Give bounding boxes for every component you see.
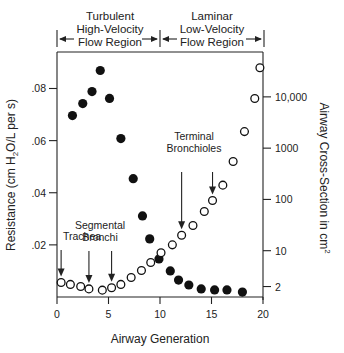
cross-section-point bbox=[98, 286, 106, 294]
annotation-label: Segmental bbox=[75, 219, 125, 231]
y-axis-title-part2: O/L per s) bbox=[4, 99, 18, 152]
annotation-arrowhead bbox=[178, 221, 185, 229]
annotation-label: Bronchi bbox=[82, 231, 118, 243]
region-arrow-laminar-left bbox=[162, 36, 177, 42]
x-tick-label: 15 bbox=[206, 308, 218, 320]
y2-ticks: 210100100010,000 bbox=[263, 91, 307, 293]
cross-section-point bbox=[178, 231, 186, 239]
region-turbulent-line2: High-Velocity bbox=[76, 23, 143, 35]
annotation-arrowhead bbox=[85, 275, 92, 283]
resistance-point bbox=[184, 280, 193, 289]
region-turbulent-line1: Turbulent bbox=[86, 10, 135, 22]
annotation-arrowhead bbox=[108, 274, 115, 282]
region-arrow-turbulent-right bbox=[142, 36, 158, 42]
y-tick-label: .08 bbox=[31, 82, 46, 94]
region-arrow-turbulent-left bbox=[59, 36, 74, 42]
resistance-point bbox=[129, 174, 138, 183]
cross-section-point bbox=[219, 181, 227, 189]
resistance-point bbox=[68, 111, 77, 120]
y-ticks: .02.04.06.08 bbox=[31, 82, 57, 250]
y-tick-label: .04 bbox=[31, 187, 46, 199]
y2-axis-title-superscript: 2 bbox=[323, 249, 332, 254]
cross-section-point bbox=[66, 281, 74, 289]
cross-section-point bbox=[157, 249, 165, 257]
resistance-point bbox=[210, 285, 219, 294]
resistance-point bbox=[96, 66, 105, 75]
resistance-point bbox=[138, 211, 147, 220]
x-tick-label: 20 bbox=[257, 308, 269, 320]
region-arrow-laminar-right bbox=[246, 36, 262, 42]
resistance-point bbox=[174, 275, 183, 284]
region-laminar-line2: Low-Velocity bbox=[180, 23, 245, 35]
x-tick-label: 5 bbox=[106, 308, 112, 320]
y2-axis-title: Airway Cross-Section in cm2 bbox=[317, 102, 332, 254]
cross-section-point bbox=[117, 281, 125, 289]
cross-section-point bbox=[85, 285, 93, 293]
resistance-point bbox=[222, 285, 231, 294]
resistance-point bbox=[78, 99, 87, 108]
y2-tick-label: 10,000 bbox=[275, 91, 307, 103]
resistance-point bbox=[238, 287, 247, 296]
x-axis-title: Airway Generation bbox=[111, 332, 210, 346]
cross-section-point bbox=[251, 95, 259, 103]
annotation-arrowhead bbox=[58, 268, 65, 276]
y-tick-label: .02 bbox=[31, 239, 46, 251]
flow-region-header: Turbulent High-Velocity Flow Region Lami… bbox=[57, 10, 264, 48]
annotation-arrowhead bbox=[209, 187, 216, 195]
y-axis-title-part1: Resistance (cm H bbox=[4, 156, 18, 251]
cross-section-point bbox=[77, 283, 85, 291]
resistance-point bbox=[166, 266, 175, 275]
region-turbulent-line3: Flow Region bbox=[78, 36, 142, 48]
y2-axis-title-text: Airway Cross-Section in cm bbox=[317, 102, 331, 249]
region-laminar-line1: Laminar bbox=[191, 10, 233, 22]
resistance-point bbox=[105, 94, 114, 103]
y2-tick-label: 2 bbox=[275, 281, 281, 293]
resistance-chart: Turbulent High-Velocity Flow Region Lami… bbox=[0, 0, 344, 353]
cross-section-point bbox=[127, 274, 135, 282]
cross-section-point bbox=[189, 222, 197, 230]
x-tick-label: 0 bbox=[54, 308, 60, 320]
resistance-point bbox=[145, 234, 154, 243]
y-tick-label: .06 bbox=[31, 135, 46, 147]
cross-section-point bbox=[147, 259, 155, 267]
annotation-label: Terminal bbox=[174, 130, 214, 142]
y2-tick-label: 1000 bbox=[275, 142, 299, 154]
resistance-point bbox=[116, 134, 125, 143]
cross-section-point bbox=[108, 284, 116, 292]
data-points bbox=[57, 64, 264, 297]
cross-section-point bbox=[57, 279, 65, 287]
x-tick-label: 10 bbox=[154, 308, 166, 320]
resistance-point bbox=[197, 284, 206, 293]
y-axis-title: Resistance (cm H2O/L per s) bbox=[4, 99, 20, 251]
cross-section-point bbox=[168, 241, 176, 249]
cross-section-point bbox=[209, 197, 217, 205]
cross-section-point bbox=[256, 64, 264, 72]
cross-section-point bbox=[229, 158, 237, 166]
annotation-label: Bronchioles bbox=[167, 142, 222, 154]
resistance-point bbox=[87, 87, 96, 96]
annotations: TracheaSegmentalBronchiTerminalBronchiol… bbox=[58, 130, 222, 283]
x-ticks: 05101520 bbox=[54, 297, 269, 320]
cross-section-point bbox=[241, 128, 249, 136]
y2-tick-label: 100 bbox=[275, 193, 293, 205]
cross-section-point bbox=[200, 208, 208, 216]
region-laminar-line3: Flow Region bbox=[180, 36, 244, 48]
y2-tick-label: 10 bbox=[275, 245, 287, 257]
cross-section-point bbox=[138, 267, 146, 275]
